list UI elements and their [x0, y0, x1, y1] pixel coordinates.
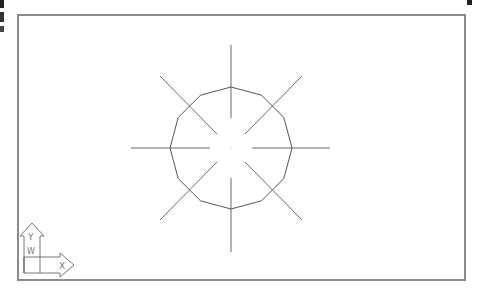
line-se: [245, 162, 302, 220]
ucs-y-label: Y: [27, 232, 34, 242]
center-point: [230, 147, 231, 148]
line-sw: [160, 162, 217, 220]
drawing-canvas[interactable]: Y W X: [0, 0, 480, 296]
radial-lines: [131, 45, 330, 252]
ucs-x-arrow: [24, 253, 74, 277]
ucs-x-label: X: [59, 261, 65, 271]
line-ne: [245, 76, 302, 134]
ucs-w-label: W: [27, 247, 35, 256]
line-nw: [160, 76, 217, 134]
